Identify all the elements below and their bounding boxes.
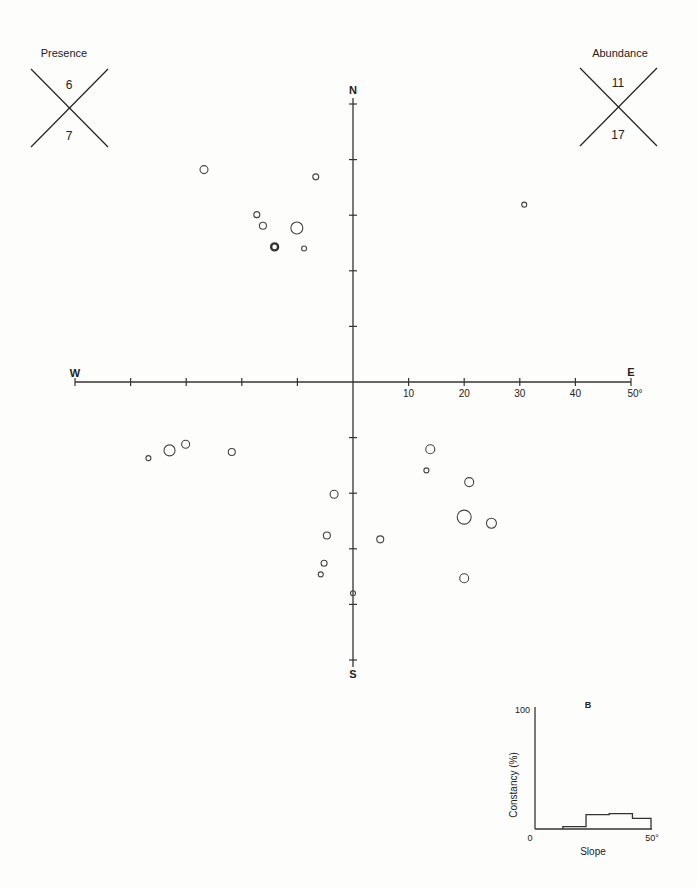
legend-abundance-lower: 17 — [611, 128, 625, 142]
data-point — [323, 532, 330, 539]
data-point — [424, 468, 429, 473]
legend-presence: Presence 6 7 — [31, 47, 108, 147]
legend-presence-upper: 6 — [66, 78, 73, 92]
data-point — [313, 174, 319, 180]
data-point — [302, 246, 307, 251]
north-label: N — [349, 84, 357, 96]
legend-abundance-upper: 11 — [612, 76, 625, 90]
data-point — [146, 456, 151, 461]
data-point — [164, 445, 175, 456]
data-point — [486, 518, 496, 528]
tick-label: 20 — [459, 388, 471, 399]
tick-label: 30 — [514, 388, 526, 399]
legend-presence-title: Presence — [41, 47, 87, 59]
data-point — [321, 560, 327, 566]
data-point — [330, 490, 338, 498]
west-label: W — [70, 367, 81, 379]
legend-abundance: Abundance 11 17 — [580, 47, 657, 146]
compass-axes: N S E W 1020304050° — [70, 84, 643, 680]
inset-panel-label: B — [585, 700, 592, 710]
data-point — [200, 166, 208, 174]
data-point — [426, 445, 435, 454]
inset-y-title: Constancy (%) — [508, 752, 519, 818]
inset-x-max-label: 50° — [645, 833, 659, 843]
data-point — [271, 243, 278, 250]
south-label: S — [349, 668, 356, 680]
inset-x-min-label: 0 — [527, 833, 532, 843]
data-point — [460, 574, 469, 583]
data-point — [522, 202, 527, 207]
data-point — [465, 478, 474, 487]
tick-label: 40 — [570, 388, 582, 399]
legend-abundance-title: Abundance — [592, 47, 648, 59]
data-point — [318, 572, 323, 577]
inset-y-max-label: 100 — [515, 705, 530, 715]
legend-presence-lower: 7 — [66, 129, 73, 143]
data-point — [228, 449, 235, 456]
east-label: E — [627, 366, 634, 378]
inset-step-line — [563, 814, 651, 829]
data-points — [146, 166, 527, 596]
data-point — [182, 440, 190, 448]
east-tick-labels: 1020304050° — [403, 388, 643, 399]
inset-chart-b: B 100 0 50° Slope Constancy (%) — [508, 700, 659, 857]
data-point — [457, 510, 471, 524]
data-point — [254, 212, 260, 218]
data-point — [291, 222, 303, 234]
tick-label: 50° — [627, 388, 642, 399]
data-point — [259, 222, 266, 229]
inset-x-title: Slope — [580, 846, 606, 857]
chart-canvas: Presence 6 7 Abundance 11 17 N S E W 102… — [0, 0, 697, 887]
data-point — [377, 536, 384, 543]
tick-label: 10 — [403, 388, 415, 399]
